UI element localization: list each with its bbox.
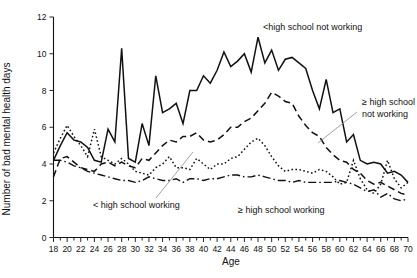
x-axis-ticks bbox=[54, 238, 409, 243]
x-tick-label: 24 bbox=[90, 244, 100, 254]
x-tick-label: 62 bbox=[349, 244, 359, 254]
x-tick-label: 30 bbox=[131, 244, 141, 254]
annotation-gte-hs-not-working-line2: not working bbox=[362, 109, 408, 119]
annotation-gte-hs-working: ≥ high school working bbox=[238, 205, 324, 215]
x-tick-label: 22 bbox=[76, 244, 86, 254]
leader-line-lt-hs-working bbox=[156, 152, 193, 198]
x-tick-label: 34 bbox=[158, 244, 168, 254]
x-tick-label: 54 bbox=[294, 244, 304, 254]
y-tick-label: 0 bbox=[42, 233, 47, 243]
x-axis-tick-labels: 1820222426283032343638404244464850525456… bbox=[49, 244, 413, 254]
x-tick-label: 68 bbox=[390, 244, 400, 254]
y-tick-label: 2 bbox=[42, 196, 47, 206]
x-tick-label: 46 bbox=[240, 244, 250, 254]
x-tick-label: 66 bbox=[376, 244, 386, 254]
x-tick-label: 56 bbox=[308, 244, 318, 254]
y-axis-title: Number of bad mental health days bbox=[1, 63, 12, 216]
x-tick-label: 26 bbox=[103, 244, 113, 254]
x-tick-label: 32 bbox=[144, 244, 154, 254]
y-tick-label: 12 bbox=[37, 12, 47, 22]
x-tick-label: 70 bbox=[403, 244, 413, 254]
x-tick-label: 36 bbox=[171, 244, 181, 254]
x-tick-label: 44 bbox=[226, 244, 236, 254]
chart-container: 024681012 182022242628303234363840424446… bbox=[0, 0, 417, 278]
x-tick-label: 20 bbox=[62, 244, 72, 254]
x-tick-label: 40 bbox=[199, 244, 209, 254]
y-tick-label: 6 bbox=[42, 122, 47, 132]
x-tick-label: 38 bbox=[185, 244, 195, 254]
x-tick-label: 50 bbox=[267, 244, 277, 254]
x-tick-label: 18 bbox=[49, 244, 59, 254]
x-tick-label: 52 bbox=[281, 244, 291, 254]
annotation-lt-hs-not-working: <high school not working bbox=[263, 22, 362, 32]
x-tick-label: 28 bbox=[117, 244, 127, 254]
annotation-gte-hs-not-working-line1: ≥ high school bbox=[362, 97, 415, 107]
x-tick-label: 42 bbox=[212, 244, 222, 254]
leader-line-gte-hs-not-working bbox=[318, 112, 357, 143]
y-tick-label: 8 bbox=[42, 86, 47, 96]
series-layer bbox=[54, 37, 409, 201]
x-tick-label: 64 bbox=[362, 244, 372, 254]
y-tick-label: 10 bbox=[37, 49, 47, 59]
y-axis-ticks bbox=[50, 17, 54, 238]
annotation-layer: <high school not working ≥ high school n… bbox=[93, 22, 415, 215]
y-tick-label: 4 bbox=[42, 159, 47, 169]
x-tick-label: 60 bbox=[335, 244, 345, 254]
annotation-lt-hs-working: < high school working bbox=[93, 200, 180, 210]
y-axis-tick-labels: 024681012 bbox=[37, 12, 47, 243]
series-line-3 bbox=[54, 160, 409, 200]
line-chart: 024681012 182022242628303234363840424446… bbox=[0, 0, 417, 278]
series-line-0 bbox=[54, 37, 409, 182]
x-tick-label: 48 bbox=[253, 244, 263, 254]
series-line-1 bbox=[54, 92, 409, 195]
x-axis-title: Age bbox=[222, 256, 240, 267]
x-tick-label: 58 bbox=[321, 244, 331, 254]
